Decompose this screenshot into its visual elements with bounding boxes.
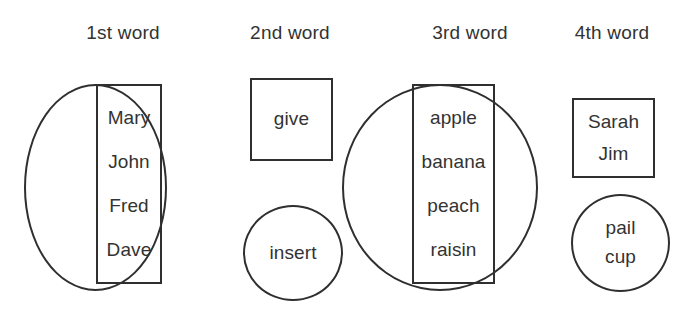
fourth-word-word-list: SarahJim [572,106,655,170]
fourth-word-secondary-word-list: pailcup [571,214,670,272]
word-category-diagram: 1st word2nd word3rd word4th wordMaryJohn… [0,0,683,324]
word-item: Sarah [588,112,639,133]
column-group-fourth-word: SarahJimpailcup [0,0,683,324]
word-item: Jim [599,144,629,165]
word-item: cup [605,247,636,268]
word-item: pail [606,218,636,239]
